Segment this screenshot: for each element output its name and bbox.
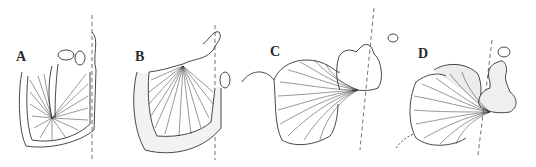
illustration-d [386, 0, 536, 167]
illustration-a [0, 0, 130, 167]
illustration-b [125, 0, 255, 167]
illustration-c [240, 0, 390, 167]
figure: A [0, 0, 536, 167]
panel-c: C [240, 0, 390, 167]
panel-d: D [386, 0, 536, 167]
panel-a: A [0, 0, 130, 167]
panel-b: B [125, 0, 255, 167]
